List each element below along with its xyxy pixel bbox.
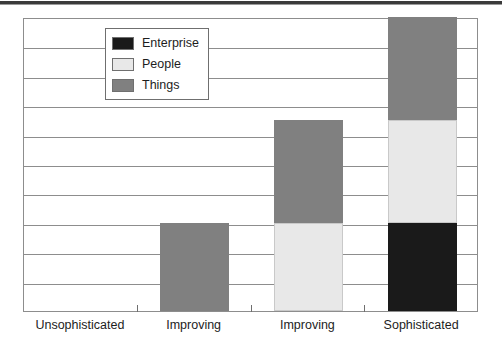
legend-swatch-things [112, 79, 134, 92]
bar-segment-things[interactable] [388, 17, 457, 120]
axis-tick [251, 305, 252, 312]
x-axis-labels: UnsophisticatedImprovingImprovingSophist… [23, 318, 478, 342]
x-axis-label: Sophisticated [384, 318, 459, 332]
legend-swatch-people [112, 58, 134, 71]
axis-tick [137, 305, 138, 312]
legend-item-enterprise[interactable]: Enterprise [112, 34, 202, 52]
legend-swatch-enterprise [112, 37, 134, 50]
bar-column[interactable] [388, 17, 457, 311]
legend-item-things[interactable]: Things [112, 76, 202, 94]
chart-legend: Enterprise People Things [105, 28, 209, 100]
bar-column[interactable] [160, 223, 229, 311]
legend-label-things: Things [142, 79, 180, 92]
x-axis-label: Improving [280, 318, 335, 332]
bar-segment-enterprise[interactable] [388, 223, 457, 311]
x-axis-label: Unsophisticated [35, 318, 124, 332]
bar-segment-people[interactable] [388, 120, 457, 223]
bar-column[interactable] [274, 120, 343, 311]
legend-label-people: People [142, 58, 181, 71]
bars-layer [24, 19, 477, 311]
header-rule [0, 1, 502, 5]
bar-segment-things[interactable] [274, 120, 343, 223]
axis-tick [364, 305, 365, 312]
bar-segment-people[interactable] [274, 223, 343, 311]
bar-segment-things[interactable] [160, 223, 229, 311]
legend-item-people[interactable]: People [112, 55, 202, 73]
legend-label-enterprise: Enterprise [142, 37, 199, 50]
chart-canvas: Enterprise People Things Unsophisticated… [0, 0, 502, 352]
plot-area [23, 18, 478, 312]
x-axis-label: Improving [166, 318, 221, 332]
